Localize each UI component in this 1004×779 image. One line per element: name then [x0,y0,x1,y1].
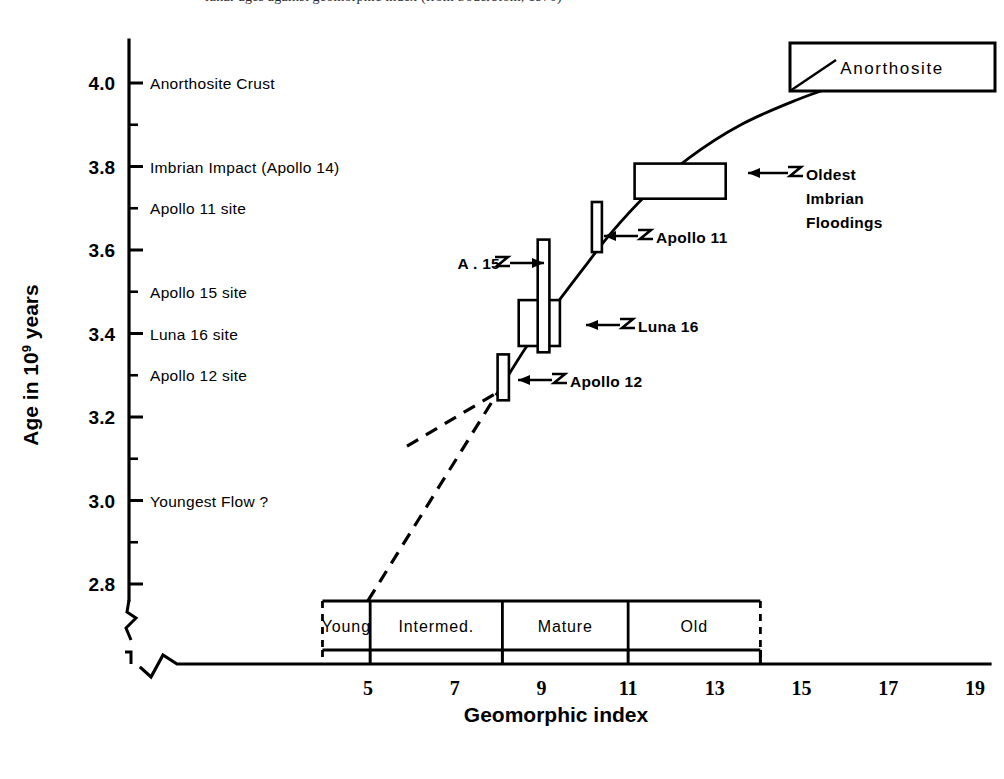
error-box-apollo-15 [538,240,550,353]
x-tick-label: 7 [450,677,460,699]
x-axis-line [141,655,990,677]
apollo-12-arrow-squiggle [552,374,567,383]
y-axis-title-main: Age in 10 [19,352,42,445]
category-label-intermed: Intermed. [398,618,474,635]
chart-axes [125,40,990,677]
x-tick-label: 11 [619,677,638,699]
upper-dashed-branch [407,392,498,446]
event-label: Apollo 15 site [150,284,247,301]
x-tick-label: 9 [536,677,546,699]
category-label-old: Old [680,618,708,635]
event-label: Imbrian Impact (Apollo 14) [150,159,340,176]
y-tick-label: 3.6 [89,240,115,261]
y-tick-label: 3.8 [89,157,115,178]
data-error-boxes [498,164,726,401]
y-tick-label: 2.8 [89,574,115,595]
y-tick-label: 3.4 [89,324,116,345]
error-box-oldest-imbrian-floodings [635,164,726,199]
oldest-imbrian-callout-line: Imbrian [806,190,864,207]
y-tick-label: 4.0 [89,73,115,94]
x-tick-label: 17 [878,677,898,699]
y-axis-title-text: Age in 109 years [19,284,42,445]
y-axis-title-suffix: years [19,284,42,345]
apollo-11-arrow-squiggle [638,230,653,239]
oldest-imbrian-arrow-squiggle [788,167,803,176]
x-tick-label: 13 [705,677,725,699]
event-label: Apollo 11 site [150,200,246,217]
x-tick-label: 5 [363,677,373,699]
event-label: Luna 16 site [150,326,238,343]
y-axis-ticks: 2.83.03.23.43.63.84.0 [89,73,143,595]
age-vs-geomorphic-index-chart: 2.83.03.23.43.63.84.0 5791113151719 Anor… [0,0,1004,779]
x-axis-title: Geomorphic index [464,703,649,726]
oldest-imbrian-callout-line: Floodings [806,214,883,231]
apollo-15-callout-label: A . 15 [457,255,500,272]
event-label: Anorthosite Crust [150,75,275,92]
apollo-12-callout-label: Apollo 12 [570,373,642,390]
y-axis-title-exponent: 9 [19,345,34,352]
anorthosite-callout-label: Anorthosite [840,59,944,78]
y-axis-event-labels: Anorthosite CrustImbrian Impact (Apollo … [150,75,340,510]
luna-16-callout-label: Luna 16 [638,318,699,335]
lower-dashed-branch [368,392,498,601]
calibration-curve [368,83,845,601]
oldest-imbrian-arrow-head [748,168,760,178]
y-axis-title: Age in 109 years [19,284,42,445]
y-tick-label: 3.2 [89,407,115,428]
y-axis-break-icon [126,600,136,640]
x-axis-ticks: 5791113151719 [363,677,985,699]
oldest-imbrian-callout-line: Oldest [806,166,856,183]
luna-16-arrow-head [586,320,598,330]
x-tick-label: 19 [965,677,985,699]
error-box-apollo-11 [592,202,602,252]
error-box-apollo-12 [498,354,509,400]
figure-root: lunar ages against geomorphic index (fro… [0,0,1004,779]
event-label: Youngest Flow ? [150,493,269,510]
y-axis-stub [125,652,131,664]
luna-16-arrow-squiggle [620,319,635,328]
apollo-11-callout-label: Apollo 11 [656,229,728,246]
y-tick-label: 3.0 [89,491,115,512]
apollo-12-arrow-head [518,375,530,385]
category-label-mature: Mature [538,618,593,635]
event-label: Apollo 12 site [150,367,247,384]
geomorphic-category-bar: YoungIntermed.MatureOld [322,601,761,664]
x-tick-label: 15 [792,677,812,699]
category-label-young: Young [322,618,371,635]
